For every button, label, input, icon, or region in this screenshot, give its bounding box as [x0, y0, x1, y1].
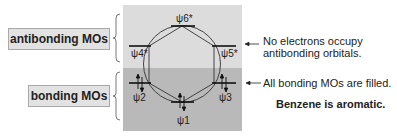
frost-circle-diagram: ψ6* ψ4* ψ5* ψ2 ψ3 ψ1: [0, 0, 397, 137]
antibonding-pointer-arrowhead: [245, 42, 249, 45]
antibonding-note-line2: antibonding orbitals.: [263, 47, 363, 59]
psi5-label: ψ5*: [221, 48, 238, 59]
psi1-label: ψ1: [177, 115, 190, 126]
conclusion-note: Benzene is aromatic.: [276, 98, 385, 110]
bonding-brace: [113, 72, 120, 120]
antibonding-note-line1: No electrons occupy: [263, 35, 363, 47]
psi6-label: ψ6*: [176, 13, 193, 24]
antibonding-note: No electrons occupy antibonding orbitals…: [263, 35, 363, 59]
antibonding-brace: [113, 14, 120, 62]
bonding-pointer-arrowhead: [246, 81, 250, 84]
psi2-label: ψ2: [133, 92, 146, 103]
bonding-note: All bonding MOs are filled.: [263, 77, 391, 89]
psi4-label: ψ4*: [131, 48, 148, 59]
psi3-label: ψ3: [219, 92, 232, 103]
